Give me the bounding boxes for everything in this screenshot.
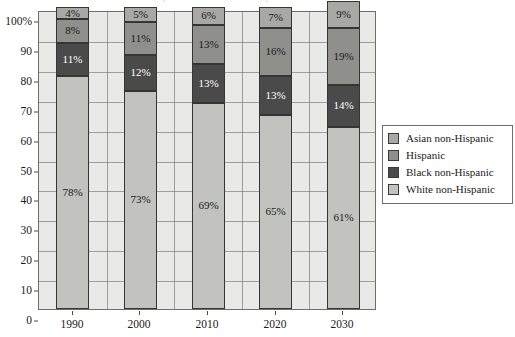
plot-area: 78%11%8%4%73%12%11%5%69%13%13%6%65%13%16…: [38, 11, 376, 310]
bar-segment[interactable]: 8%: [56, 19, 89, 43]
legend-item[interactable]: Hispanic: [388, 147, 507, 164]
bar-segment[interactable]: 11%: [124, 22, 157, 55]
y-axis-tick-label: 80: [21, 76, 33, 88]
y-axis-tick-label: 40: [21, 196, 33, 208]
bar-segment-value-label: 4%: [65, 8, 80, 19]
gridline-vertical: [107, 12, 108, 309]
bar-segment[interactable]: 5%: [124, 7, 157, 22]
y-axis: 0102030405060708090100%: [0, 11, 38, 310]
y-axis-tick-label: 90: [21, 46, 33, 58]
legend-swatch-icon: [388, 133, 399, 144]
bar-segment[interactable]: 9%: [327, 1, 360, 28]
bar-segment[interactable]: 73%: [124, 91, 157, 309]
y-axis-tick-label: 100%: [5, 16, 32, 28]
y-axis-tick-label: 30: [21, 226, 33, 238]
bar-segment-value-label: 8%: [65, 25, 80, 36]
legend-swatch-icon: [388, 150, 399, 161]
gridline-vertical: [309, 12, 310, 309]
bar-segment[interactable]: 19%: [327, 28, 360, 85]
legend-item-label: Black non-Hispanic: [406, 167, 494, 178]
bar-segment[interactable]: 4%: [56, 7, 89, 19]
y-axis-tick-label: 20: [21, 255, 33, 267]
bar-segment-value-label: 61%: [333, 212, 353, 223]
legend-swatch-icon: [388, 184, 399, 195]
bar-segment-value-label: 13%: [198, 78, 218, 89]
y-axis-tick-label: 70: [21, 106, 33, 118]
plot-inner: 78%11%8%4%73%12%11%5%69%13%13%6%65%13%16…: [39, 12, 375, 309]
bar-2030[interactable]: 61%14%19%9%: [327, 12, 360, 309]
y-axis-tick-label: 10: [21, 285, 33, 297]
x-axis-tick-mark: [342, 311, 343, 315]
bar-segment[interactable]: 13%: [192, 64, 225, 103]
chart-title: Projected Race and Ethnicity of the U.S.…: [0, 0, 515, 5]
bar-1990[interactable]: 78%11%8%4%: [56, 12, 89, 309]
bar-segment-value-label: 9%: [336, 9, 351, 20]
y-axis-tick-label: 60: [21, 136, 33, 148]
gridline-vertical: [242, 12, 243, 309]
x-axis-tick-label: 2020: [264, 318, 287, 330]
bar-segment-value-label: 69%: [198, 200, 218, 211]
gridline-vertical: [174, 12, 175, 309]
bar-segment-value-label: 16%: [265, 46, 285, 57]
bar-2010[interactable]: 69%13%13%6%: [192, 12, 225, 309]
bar-segment-value-label: 13%: [198, 39, 218, 50]
bar-segment-value-label: 65%: [265, 206, 285, 217]
bar-segment-value-label: 11%: [63, 54, 83, 65]
bar-2000[interactable]: 73%12%11%5%: [124, 12, 157, 309]
bar-segment[interactable]: 7%: [259, 7, 292, 28]
y-axis-tick-label: 50: [21, 166, 33, 178]
bar-2020[interactable]: 65%13%16%7%: [259, 12, 292, 309]
bar-segment[interactable]: 14%: [327, 85, 360, 127]
bar-segment-value-label: 6%: [201, 10, 216, 21]
legend-item[interactable]: Asian non-Hispanic: [388, 130, 507, 147]
bar-segment-value-label: 11%: [131, 33, 151, 44]
legend-swatch-icon: [388, 167, 399, 178]
legend-item[interactable]: Black non-Hispanic: [388, 164, 507, 181]
x-axis-tick-label: 2000: [128, 318, 151, 330]
x-axis-tick-label: 1990: [61, 318, 84, 330]
bar-segment[interactable]: 65%: [259, 115, 292, 309]
bar-segment[interactable]: 12%: [124, 55, 157, 91]
chart-legend: Asian non-HispanicHispanicBlack non-Hisp…: [382, 125, 513, 204]
y-axis-tick-label: 0: [26, 315, 32, 327]
bar-segment[interactable]: 13%: [259, 76, 292, 115]
x-axis-tick-mark: [72, 311, 73, 315]
bar-segment-value-label: 7%: [268, 12, 283, 23]
bar-segment-value-label: 12%: [130, 67, 150, 78]
legend-item-label: White non-Hispanic: [406, 184, 495, 195]
legend-item[interactable]: White non-Hispanic: [388, 181, 507, 198]
bar-segment[interactable]: 6%: [192, 7, 225, 25]
x-axis-tick-mark: [207, 311, 208, 315]
bar-segment[interactable]: 16%: [259, 28, 292, 76]
x-axis-tick-label: 2030: [331, 318, 354, 330]
bar-segment-value-label: 19%: [333, 51, 353, 62]
x-axis-tick-label: 2010: [196, 318, 219, 330]
bar-segment[interactable]: 78%: [56, 76, 89, 309]
bar-segment-value-label: 78%: [62, 187, 82, 198]
legend-item-label: Asian non-Hispanic: [406, 133, 494, 144]
x-axis-tick-mark: [275, 311, 276, 315]
bar-segment[interactable]: 13%: [192, 25, 225, 64]
legend-item-label: Hispanic: [406, 150, 445, 161]
bar-segment-value-label: 13%: [265, 90, 285, 101]
x-axis-tick-mark: [139, 311, 140, 315]
bar-segment-value-label: 5%: [133, 9, 148, 20]
bar-segment[interactable]: 11%: [56, 43, 89, 76]
bar-segment-value-label: 14%: [333, 100, 353, 111]
x-axis: 19902000201020202030: [38, 311, 376, 337]
bar-segment-value-label: 73%: [130, 194, 150, 205]
bar-segment[interactable]: 69%: [192, 103, 225, 309]
bar-segment[interactable]: 61%: [327, 127, 360, 309]
